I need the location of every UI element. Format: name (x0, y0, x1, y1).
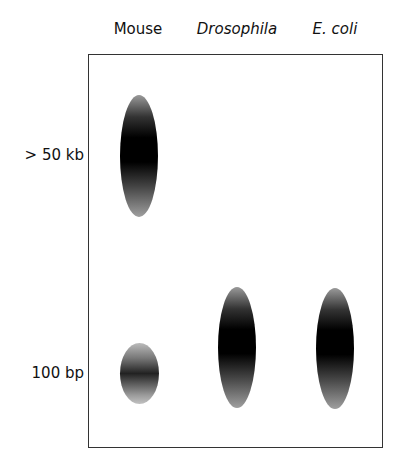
size-label-50kb: > 50 kb (0, 146, 84, 164)
band-mouse-large (120, 95, 158, 217)
band-mouse-small (120, 343, 159, 404)
lane-label-mouse: Mouse (88, 20, 188, 38)
band-ecoli (316, 288, 354, 409)
lane-label-drosophila: Drosophila (187, 20, 287, 38)
size-label-100bp: 100 bp (0, 364, 84, 382)
lane-label-ecoli: E. coli (285, 20, 385, 38)
band-drosophila (218, 287, 256, 408)
